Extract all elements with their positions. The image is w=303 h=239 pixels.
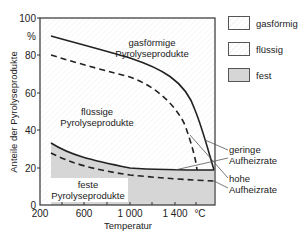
legend-item-liquid: flüssig xyxy=(228,40,298,58)
x-axis-label: Temperatur xyxy=(104,220,152,231)
legend-swatch-liquid xyxy=(228,42,250,56)
x-tick-200: 200 xyxy=(32,208,49,219)
solid-region-label: feste xyxy=(78,179,99,190)
x-unit: °C xyxy=(194,208,205,219)
annotation-low-rate-2: Aufheizrate xyxy=(229,155,277,166)
legend-label: fest xyxy=(256,70,271,81)
liquid-region-label-2: Pyrolyseprodukte xyxy=(60,117,133,128)
gas-region-label-2: Pyrolyseprodukte xyxy=(115,48,188,59)
gas-region-label: gasförmige xyxy=(129,37,176,48)
y-tick-60: 60 xyxy=(25,88,37,99)
y-tick-80: 80 xyxy=(25,50,37,61)
legend-item-gas: gasförmig xyxy=(228,14,298,32)
x-tick-600: 600 xyxy=(76,208,93,219)
legend-swatch-gas xyxy=(228,16,250,30)
liquid-region-label: flüssige xyxy=(81,106,113,117)
y-axis-label: Anteile der Pyrolyseprodukte xyxy=(8,51,19,172)
x-tick-1000: 1 000 xyxy=(117,208,142,219)
legend: gasförmig flüssig fest xyxy=(228,14,298,92)
y-unit: % xyxy=(27,31,36,42)
legend-swatch-solid xyxy=(228,68,250,82)
solid-region-label-2: Pyrolyseprodukte xyxy=(51,190,124,201)
legend-item-solid: fest xyxy=(228,66,298,84)
y-tick-100: 100 xyxy=(19,13,36,24)
x-tick-1400: 1 400 xyxy=(162,208,187,219)
annotation-low-rate: geringe xyxy=(229,144,261,155)
annotation-high-rate-2: Aufheizrate xyxy=(229,184,277,195)
annotation-high-rate: hohe xyxy=(229,173,250,184)
legend-label: flüssig xyxy=(256,44,283,55)
y-tick-40: 40 xyxy=(25,125,37,136)
legend-label: gasförmig xyxy=(256,18,298,29)
y-tick-20: 20 xyxy=(25,163,37,174)
